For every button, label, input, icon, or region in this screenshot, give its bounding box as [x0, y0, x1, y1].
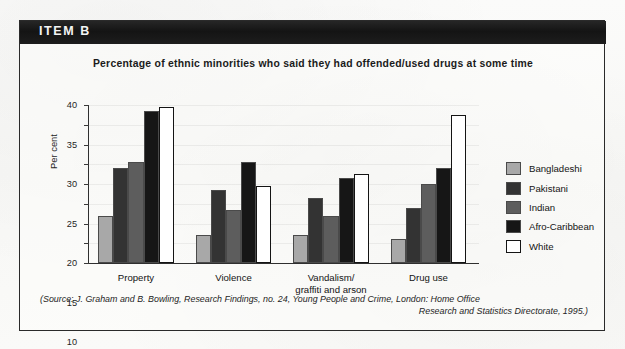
legend-item: Pakistani [506, 178, 618, 197]
bar [226, 210, 241, 263]
source-line-1: (Source: J. Graham and B. Bowling, Resea… [40, 293, 588, 305]
bar [323, 216, 338, 263]
source-note: (Source: J. Graham and B. Bowling, Resea… [40, 293, 588, 318]
y-axis-tick-label: 25 [67, 219, 77, 229]
y-axis-tick-label: 30 [67, 179, 77, 189]
bar [241, 162, 256, 263]
y-axis-tick-label: 35 [67, 140, 77, 150]
bar-chart-plot-area: 0510152025303540 PropertyViolenceVandali… [89, 105, 479, 263]
y-axis-tick-label: 10 [67, 337, 77, 347]
y-axis-title: Per cent [48, 134, 59, 169]
gridline [89, 105, 479, 106]
bar [339, 178, 354, 263]
legend-label: White [529, 241, 554, 252]
y-axis-tick: 0 [84, 263, 89, 264]
legend-label: Indian [529, 202, 555, 213]
legend-item: White [506, 237, 618, 256]
y-axis-tick-label: 20 [67, 258, 77, 268]
bar [128, 162, 143, 263]
legend-item: Afro-Caribbean [506, 217, 618, 236]
legend-swatch [506, 240, 521, 253]
item-header-bar: ITEM B [20, 21, 606, 44]
legend-swatch [506, 201, 521, 214]
legend-swatch [506, 162, 521, 175]
bar [421, 184, 436, 263]
legend-item: Bangladeshi [506, 159, 618, 178]
bar [256, 186, 271, 263]
chart-title: Percentage of ethnic minorities who said… [20, 58, 606, 69]
legend-label: Afro-Caribbean [529, 221, 594, 232]
bar [391, 239, 406, 263]
bar [354, 174, 369, 263]
bar [308, 198, 323, 263]
chart-legend: BangladeshiPakistaniIndianAfro-Caribbean… [506, 159, 618, 256]
bar [451, 115, 466, 263]
bar [159, 107, 174, 263]
legend-swatch [506, 182, 521, 195]
bar [196, 235, 211, 263]
legend-swatch [506, 220, 521, 233]
bar [144, 111, 159, 263]
y-axis-tick-label: 40 [67, 100, 77, 110]
x-axis-category-label: Drug use [369, 272, 489, 284]
x-axis-line [88, 263, 479, 264]
bar [211, 190, 226, 263]
bar [293, 235, 308, 263]
bar [98, 216, 113, 263]
bar [436, 168, 451, 263]
item-frame: ITEM B Percentage of ethnic minorities w… [19, 20, 605, 331]
legend-label: Pakistani [529, 183, 568, 194]
bar [113, 168, 128, 263]
legend-item: Indian [506, 198, 618, 217]
legend-label: Bangladeshi [529, 163, 582, 174]
item-label: ITEM B [39, 24, 91, 38]
bar [406, 208, 421, 263]
source-line-2: Research and Statistics Directorate, 199… [40, 305, 588, 317]
